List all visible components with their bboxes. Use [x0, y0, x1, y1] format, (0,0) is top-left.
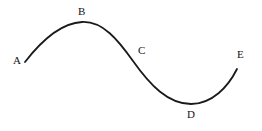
curve-canvas [0, 0, 262, 131]
point-label-e: E [237, 49, 244, 60]
point-label-b: B [78, 6, 86, 17]
point-label-a: A [13, 55, 21, 66]
wave-curve-figure: A B C D E [0, 0, 262, 131]
wave-curve-path [25, 22, 237, 104]
point-label-c: C [138, 45, 146, 56]
point-label-d: D [187, 109, 195, 120]
